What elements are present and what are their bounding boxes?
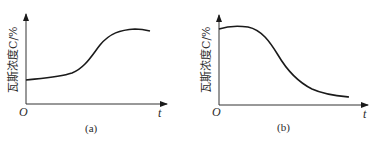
curve-b xyxy=(219,26,349,97)
y-axis-label-a: 瓦斯浓度C/% xyxy=(6,26,20,93)
chart-a: 瓦斯浓度C/% O t (a) xyxy=(6,14,167,135)
origin-label-b: O xyxy=(212,105,221,119)
chart-b: 瓦斯浓度C/% O t (b) xyxy=(199,15,368,134)
x-axis-label-b: t xyxy=(363,107,367,121)
curve-a xyxy=(26,29,150,80)
caption-a: (a) xyxy=(85,122,98,135)
x-axis-label-a: t xyxy=(158,106,162,120)
figure-canvas: 瓦斯浓度C/% O t (a) 瓦斯浓度C/% O t (b) xyxy=(0,0,376,144)
origin-label-a: O xyxy=(19,105,28,119)
y-axis-label-b: 瓦斯浓度C/% xyxy=(199,26,213,93)
caption-b: (b) xyxy=(277,121,290,134)
